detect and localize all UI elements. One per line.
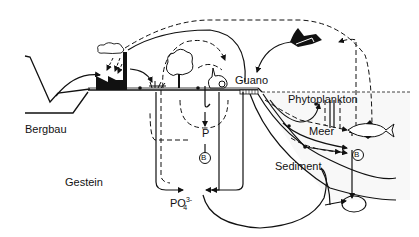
phosphorus-cycle-diagram: [0, 0, 419, 237]
label-bacteria-sea: B: [354, 151, 359, 159]
bird-icon: [290, 28, 322, 47]
phosphate-charge: 3-: [186, 196, 192, 203]
mining-terrain: [25, 56, 100, 113]
label-p: P: [202, 128, 209, 139]
label-meer: Meer: [309, 126, 334, 137]
label-sediment: Sediment: [275, 161, 321, 172]
rabbit-icon: [208, 68, 227, 88]
label-bacteria-land: B: [201, 154, 206, 162]
smoke-cloud-icon: [98, 43, 124, 54]
label-gestein: Gestein: [65, 177, 103, 188]
fallout-arrows: [107, 58, 122, 73]
phosphate-index: 4: [183, 204, 187, 211]
label-bergbau: Bergbau: [25, 124, 67, 135]
label-phosphate: PO3-4: [170, 198, 196, 209]
factory-icon: [96, 52, 127, 90]
label-guano: Guano: [235, 75, 268, 86]
flow-arrow: [130, 69, 152, 82]
label-phytoplankton: Phytoplankton: [288, 94, 358, 105]
